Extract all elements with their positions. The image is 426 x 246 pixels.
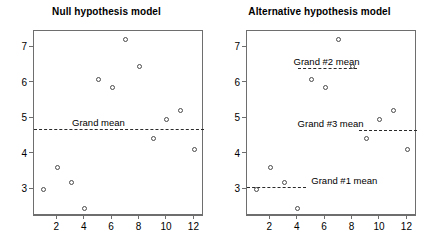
- data-point: [309, 77, 314, 82]
- grand-mean-label: Grand mean: [72, 117, 125, 128]
- x-tick-mark: [111, 215, 112, 219]
- data-point: [123, 37, 128, 42]
- x-tick-mark: [406, 215, 407, 219]
- x-tick-label: 6: [321, 221, 327, 232]
- x-tick-label: 10: [160, 221, 171, 232]
- x-tick-mark: [351, 215, 352, 219]
- x-axis-line: [33, 215, 203, 216]
- panel-null-model: Null hypothesis model Grand mean 3456724…: [0, 0, 213, 246]
- x-tick-mark: [193, 215, 194, 219]
- x-tick-mark: [296, 215, 297, 219]
- y-tick-mark: [242, 152, 246, 153]
- x-tick-label: 4: [294, 221, 300, 232]
- figure: Null hypothesis model Grand mean 3456724…: [0, 0, 426, 246]
- y-tick-mark: [29, 117, 33, 118]
- data-point: [254, 187, 259, 192]
- y-tick-label: 3: [21, 183, 27, 194]
- data-point: [323, 85, 328, 90]
- data-point: [268, 165, 273, 170]
- data-point: [282, 180, 287, 185]
- data-point: [110, 85, 115, 90]
- x-tick-label: 2: [54, 221, 60, 232]
- x-tick-label: 12: [188, 221, 199, 232]
- group-3-mean-label: Grand #3 mean: [298, 118, 364, 129]
- panel-alternative-model: Alternative hypothesis model Grand #1 me…: [213, 0, 426, 246]
- x-tick-mark: [138, 215, 139, 219]
- plot-area-null-model: Grand mean: [33, 30, 203, 215]
- x-tick-label: 8: [349, 221, 355, 232]
- data-point: [137, 64, 142, 69]
- x-tick-label: 6: [108, 221, 114, 232]
- x-tick-mark: [83, 215, 84, 219]
- data-point: [164, 117, 169, 122]
- grand-mean-line: [34, 129, 204, 130]
- data-point: [377, 117, 382, 122]
- x-tick-label: 2: [267, 221, 273, 232]
- y-tick-label: 4: [21, 147, 27, 158]
- x-tick-mark: [165, 215, 166, 219]
- data-point: [41, 187, 46, 192]
- data-point: [178, 108, 183, 113]
- x-axis-line: [246, 215, 416, 216]
- y-tick-mark: [29, 152, 33, 153]
- x-tick-label: 12: [401, 221, 412, 232]
- group-3-mean-line: [359, 130, 417, 131]
- data-point: [55, 165, 60, 170]
- x-tick-mark: [56, 215, 57, 219]
- group-2-mean-line: [298, 68, 357, 69]
- y-tick-label: 5: [234, 112, 240, 123]
- y-tick-label: 6: [234, 76, 240, 87]
- panel-title: Alternative hypothesis model: [213, 6, 426, 17]
- x-tick-mark: [269, 215, 270, 219]
- y-tick-mark: [242, 188, 246, 189]
- x-tick-mark: [324, 215, 325, 219]
- plot-area-alternative-model: Grand #1 meanGrand #2 meanGrand #3 mean: [246, 30, 416, 215]
- y-tick-label: 6: [21, 76, 27, 87]
- data-point: [69, 180, 74, 185]
- data-point: [96, 77, 101, 82]
- data-point: [82, 206, 87, 211]
- data-point: [151, 136, 156, 141]
- y-tick-label: 5: [21, 112, 27, 123]
- y-tick-mark: [29, 188, 33, 189]
- data-point: [364, 136, 369, 141]
- y-tick-mark: [29, 46, 33, 47]
- y-tick-label: 7: [234, 41, 240, 52]
- y-tick-label: 4: [234, 147, 240, 158]
- data-point: [295, 206, 300, 211]
- data-point: [405, 147, 410, 152]
- y-tick-label: 3: [234, 183, 240, 194]
- y-tick-mark: [242, 46, 246, 47]
- data-point: [336, 37, 341, 42]
- data-point: [192, 147, 197, 152]
- plot-inner: Grand mean: [34, 31, 202, 214]
- y-tick-mark: [242, 117, 246, 118]
- y-tick-label: 7: [21, 41, 27, 52]
- y-tick-mark: [29, 81, 33, 82]
- x-tick-label: 4: [81, 221, 87, 232]
- panel-title: Null hypothesis model: [0, 6, 213, 17]
- x-tick-label: 10: [373, 221, 384, 232]
- y-tick-mark: [242, 81, 246, 82]
- x-tick-mark: [378, 215, 379, 219]
- group-1-mean-label: Grand #1 mean: [311, 175, 377, 186]
- data-point: [391, 108, 396, 113]
- plot-inner: Grand #1 meanGrand #2 meanGrand #3 mean: [247, 31, 415, 214]
- x-tick-label: 8: [136, 221, 142, 232]
